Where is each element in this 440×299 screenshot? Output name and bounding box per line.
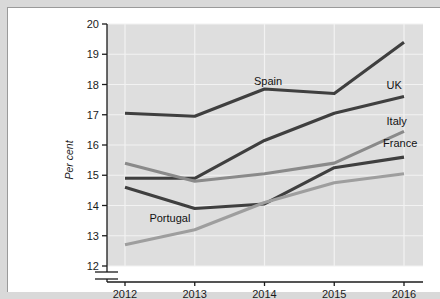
y-tick-label: 14 bbox=[87, 200, 99, 212]
x-tick-label: 2016 bbox=[392, 288, 416, 299]
y-axis-title: Per cent bbox=[63, 139, 75, 179]
series-label-spain: Spain bbox=[254, 75, 282, 87]
series-label-italy: Italy bbox=[387, 115, 408, 127]
y-axis-ticks: 121314151617181920 bbox=[87, 18, 107, 272]
x-tick-label: 2012 bbox=[113, 288, 137, 299]
y-tick-label: 18 bbox=[87, 79, 99, 91]
chart-canvas: 121314151617181920 20122013201420152016 … bbox=[0, 0, 440, 299]
series-label-france: France bbox=[383, 137, 417, 149]
series-label-portugal: Portugal bbox=[149, 212, 190, 224]
x-axis-ticks: 20122013201420152016 bbox=[113, 282, 416, 299]
y-tick-label: 12 bbox=[87, 260, 99, 272]
x-tick-label: 2015 bbox=[322, 288, 346, 299]
line-chart: 121314151617181920 20122013201420152016 … bbox=[0, 0, 440, 299]
y-tick-label: 19 bbox=[87, 48, 99, 60]
x-tick-label: 2014 bbox=[252, 288, 276, 299]
y-tick-label: 17 bbox=[87, 109, 99, 121]
y-tick-label: 15 bbox=[87, 169, 99, 181]
y-tick-label: 13 bbox=[87, 230, 99, 242]
series-label-uk: UK bbox=[387, 79, 403, 91]
y-tick-label: 16 bbox=[87, 139, 99, 151]
x-tick-label: 2013 bbox=[183, 288, 207, 299]
screenshot-root: 121314151617181920 20122013201420152016 … bbox=[0, 0, 440, 299]
y-tick-label: 20 bbox=[87, 18, 99, 30]
